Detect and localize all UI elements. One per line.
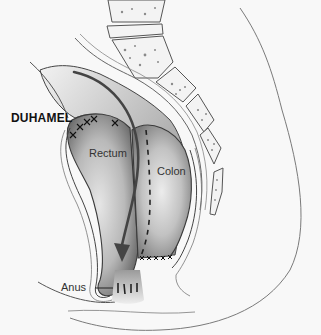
- rectum-label: Rectum: [89, 147, 127, 159]
- procedure-title: DUHAMEL: [11, 111, 72, 125]
- colon-label: Colon: [157, 165, 186, 177]
- duhamel-diagram: DUHAMEL Rectum Colon Anus: [0, 0, 321, 335]
- inner-buttock-curve: [68, 310, 195, 313]
- anal-canal: [112, 270, 144, 304]
- anus-label: Anus: [61, 281, 86, 293]
- pulled-through-colon: [132, 125, 191, 258]
- rectum-pouch: [67, 114, 138, 296]
